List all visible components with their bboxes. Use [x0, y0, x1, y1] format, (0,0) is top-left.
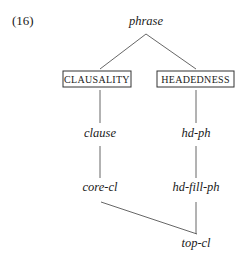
node-phrase: phrase: [128, 14, 163, 28]
dimension-clausality: CLAUSALITY: [64, 74, 130, 85]
node-core-cl: core-cl: [83, 180, 118, 194]
node-top-cl: top-cl: [181, 236, 211, 250]
node-clause: clause: [84, 126, 116, 140]
node-hd-ph: hd-ph: [181, 126, 210, 140]
edge-core-cl-top-cl: [101, 202, 197, 234]
edge-phrase-clausality: [100, 34, 146, 69]
example-number: (16): [12, 13, 34, 28]
edge-phrase-headedness: [146, 34, 196, 69]
node-hd-fill-ph: hd-fill-ph: [172, 180, 219, 194]
dimension-headedness: HEADEDNESS: [161, 74, 230, 85]
type-hierarchy-diagram: (16) phrase CLAUSALITY HEADEDNESS clause…: [0, 0, 248, 258]
